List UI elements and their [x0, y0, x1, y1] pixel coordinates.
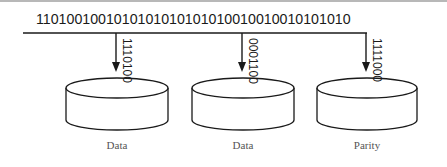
disk-data-1: Data: [66, 78, 168, 151]
arrow-down-icon: [112, 33, 120, 72]
disk-data-2: Data: [192, 78, 294, 151]
arrow-down-icon: [238, 33, 246, 72]
input-bit-stream: 1101001001010101010101010010010010101010: [36, 11, 351, 27]
disk-bits: 0001100: [246, 38, 260, 84]
disk-label: Data: [233, 139, 254, 151]
disk-label: Data: [107, 139, 128, 151]
arrow-down-icon: [362, 33, 370, 72]
raid-diagram: 1101001001010101010101010010010010101010…: [0, 0, 447, 167]
disk-label: Parity: [354, 139, 381, 151]
disk-parity: Parity: [317, 78, 417, 151]
disk-bits: 1111000: [370, 38, 384, 82]
disk-bits: 1110100: [120, 38, 134, 83]
